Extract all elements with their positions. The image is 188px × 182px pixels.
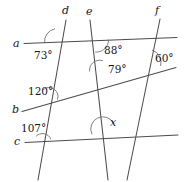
arc-107-icon: [36, 134, 51, 140]
angle-label-107: 107°: [21, 123, 46, 134]
line-f: [127, 19, 160, 180]
line-label-c: c: [14, 136, 20, 147]
line-label-b: b: [12, 104, 19, 115]
arc-73-icon: [45, 29, 55, 43]
line-label-a: a: [13, 38, 20, 49]
angle-label-120: 120°: [28, 86, 53, 97]
angle-label-79: 79°: [108, 64, 127, 75]
line-label-f: f: [155, 5, 159, 16]
geometry-diagram: a b c d e f 73° 88° 60° 79° 120° 107° x: [0, 0, 188, 182]
angle-label-60: 60°: [155, 53, 174, 64]
line-a: [24, 38, 177, 44]
angle-label-x: x: [110, 117, 116, 128]
angle-label-88: 88°: [104, 45, 123, 56]
line-label-d: d: [62, 5, 69, 16]
line-c: [25, 135, 178, 143]
line-label-e: e: [86, 6, 93, 17]
angle-label-73: 73°: [34, 50, 53, 61]
arc-79-icon: [90, 60, 103, 71]
